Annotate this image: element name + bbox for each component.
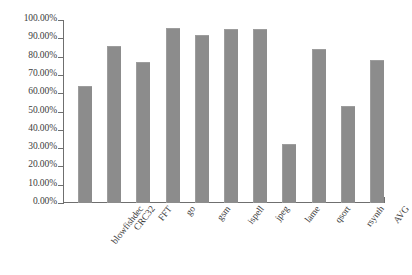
y-axis-tick-label: 60.00% (28, 86, 57, 97)
y-axis-ticks: 0.00%10.00%20.00%30.00%40.00%50.00%60.00… (0, 0, 70, 275)
bar (136, 62, 150, 203)
y-axis-tick-label: 0.00% (33, 196, 57, 207)
bar (282, 144, 296, 203)
x-axis-category-label: AVG (391, 204, 411, 226)
bar (107, 46, 121, 203)
x-axis-category-label: gsm (215, 204, 233, 223)
bar (341, 106, 355, 203)
x-axis-category-label: go (183, 204, 197, 218)
y-axis-tick-label: 80.00% (28, 50, 57, 61)
y-axis-tick-label: 40.00% (28, 123, 57, 134)
y-axis-tick-label: 10.00% (28, 178, 57, 189)
y-axis-tick-label: 70.00% (28, 68, 57, 79)
bar (195, 35, 209, 203)
x-axis-category-label: ispell (246, 204, 267, 227)
bar (253, 29, 267, 203)
bar (78, 86, 92, 203)
x-axis-category-labels: blowfishdecCRC32FFTgogsmispelljpeglameqs… (63, 204, 403, 275)
x-axis-category-label: FFT (157, 204, 176, 223)
bar (224, 29, 238, 203)
x-axis-category-label: rsynth (364, 204, 387, 229)
bar (370, 60, 384, 203)
x-axis-category-label: lame (303, 204, 323, 225)
y-axis-tick-label: 90.00% (28, 31, 57, 42)
x-axis-category-label: qsort (333, 204, 353, 225)
y-axis-tick-label: 100.00% (24, 13, 57, 24)
x-axis-category-label: jpeg (273, 204, 291, 223)
plot-area (63, 20, 385, 203)
bar (166, 28, 180, 203)
y-axis-tick-label: 30.00% (28, 141, 57, 152)
bar (312, 49, 326, 203)
y-axis-tick-label: 50.00% (28, 105, 57, 116)
y-axis-tick-label: 20.00% (28, 159, 57, 170)
